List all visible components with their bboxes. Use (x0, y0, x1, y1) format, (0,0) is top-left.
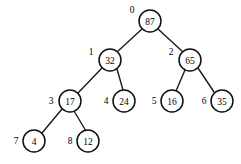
node-index-label: 5 (152, 96, 157, 106)
tree-node: 87 (139, 10, 161, 32)
node-index-label: 4 (104, 96, 109, 106)
node-index-label: 3 (49, 96, 54, 106)
node-value-label: 12 (83, 137, 93, 147)
node-index-label: 8 (68, 136, 73, 146)
tree-node: 4 (23, 130, 45, 152)
binary-tree-figure: 87326517241635412 012345678 (0, 0, 241, 164)
tree-edge (78, 68, 102, 93)
node-index-label: 0 (130, 5, 135, 15)
node-index-label: 2 (169, 47, 174, 57)
edges-layer (42, 29, 214, 133)
tree-edge (42, 109, 62, 133)
node-index-labels-layer: 012345678 (14, 5, 207, 146)
node-value-label: 35 (217, 97, 227, 107)
tree-edge (198, 68, 214, 92)
tree-node: 24 (113, 90, 135, 112)
tree-node: 65 (179, 49, 201, 71)
tree-node: 32 (99, 49, 121, 71)
tree-node: 12 (77, 130, 99, 152)
node-value-label: 87 (145, 17, 155, 27)
tree-edge (117, 29, 142, 52)
node-value-label: 32 (105, 56, 115, 66)
node-value-label: 65 (185, 56, 195, 66)
node-value-label: 4 (32, 137, 37, 147)
node-index-label: 1 (89, 47, 94, 57)
tree-edge (176, 70, 185, 91)
tree-edge (74, 111, 86, 131)
tree-node: 16 (161, 90, 183, 112)
tree-edge (117, 69, 123, 90)
node-value-label: 16 (167, 97, 177, 107)
tree-node: 17 (59, 90, 81, 112)
node-value-label: 17 (65, 97, 75, 107)
node-index-label: 7 (14, 136, 19, 146)
node-value-label: 24 (119, 97, 129, 107)
nodes-layer: 87326517241635412 (23, 10, 233, 152)
tree-node: 35 (211, 90, 233, 112)
tree-canvas: 87326517241635412 012345678 (0, 0, 241, 164)
node-index-label: 6 (202, 96, 207, 106)
